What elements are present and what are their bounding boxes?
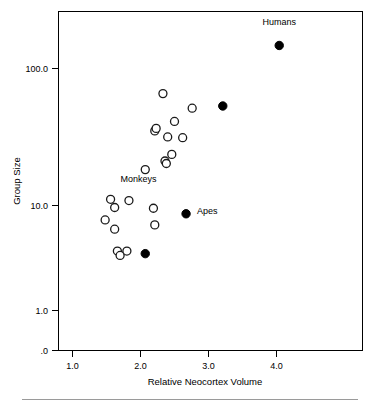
annotation-apes: Apes (197, 206, 218, 216)
data-point (171, 117, 179, 125)
data-point (152, 124, 160, 132)
data-point (107, 195, 115, 203)
y-tick-label-1: 1.0 (35, 306, 48, 316)
data-point (164, 133, 172, 141)
data-point (111, 204, 119, 212)
data-point (141, 249, 149, 257)
data-points-layer (101, 41, 283, 259)
y-tick-label-10: 10.0 (30, 201, 48, 211)
data-point (168, 150, 176, 158)
annotation-humans: Humans (262, 17, 296, 27)
data-point (123, 247, 131, 255)
data-point (159, 90, 167, 98)
data-point (125, 197, 133, 205)
x-tick-label-1: 1.0 (66, 361, 79, 371)
data-point (101, 216, 109, 224)
annotation-monkeys: Monkeys (120, 174, 157, 184)
data-point (162, 160, 170, 168)
x-axis-title: Relative Neocortex Volume (148, 376, 263, 387)
data-point (151, 221, 159, 229)
data-point (141, 166, 149, 174)
y-tick-label-0: .0 (40, 346, 48, 356)
scatter-plot-figure: 100.0 10.0 1.0 .0 Group Size 1.0 2.0 3.0… (0, 0, 380, 406)
data-point (111, 225, 119, 233)
plot-frame (59, 12, 363, 351)
data-point (275, 41, 283, 49)
x-tick-label-2: 2.0 (134, 361, 147, 371)
x-tick-label-4: 4.0 (270, 361, 283, 371)
x-tick-label-3: 3.0 (202, 361, 215, 371)
y-tick-label-100: 100.0 (25, 64, 48, 74)
data-point (188, 104, 196, 112)
plot-canvas: 100.0 10.0 1.0 .0 Group Size 1.0 2.0 3.0… (0, 0, 380, 406)
data-point (179, 134, 187, 142)
data-point (182, 210, 190, 218)
data-point (219, 102, 227, 110)
y-axis-title: Group Size (11, 157, 22, 205)
data-point (149, 204, 157, 212)
